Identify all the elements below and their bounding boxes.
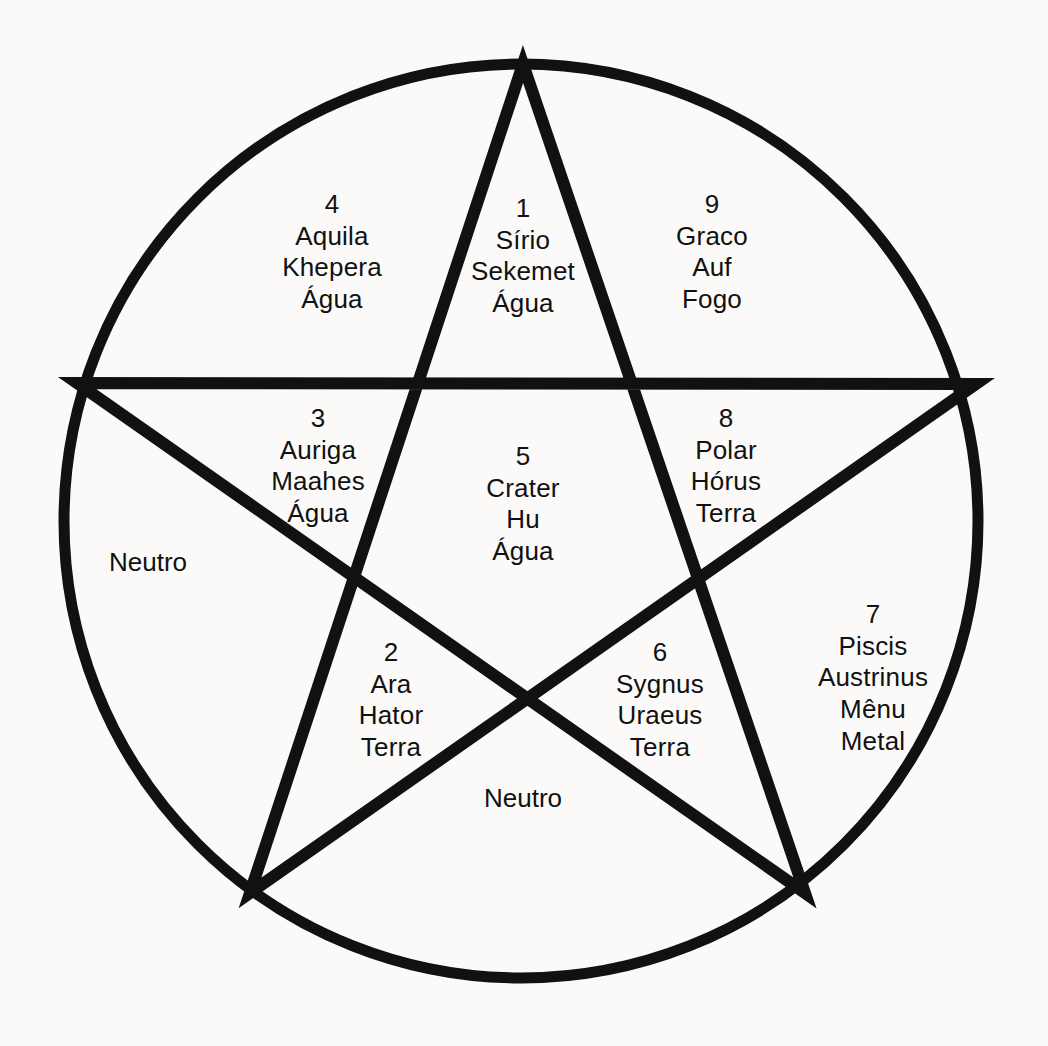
region-constellation-line1: Piscis xyxy=(818,630,928,662)
region-label-9: 9 Graco Auf Fogo xyxy=(676,189,748,316)
region-constellation: Graco xyxy=(676,220,748,252)
region-number: 3 xyxy=(271,403,365,435)
region-number: 5 xyxy=(486,441,559,473)
region-deity: Hórus xyxy=(691,466,761,498)
region-label-1: 1 Sírio Sekemet Água xyxy=(471,193,575,320)
region-number: 4 xyxy=(282,189,382,221)
region-label-5: 5 Crater Hu Água xyxy=(486,441,559,568)
region-number: 6 xyxy=(616,637,704,669)
region-label-6: 6 Sygnus Uraeus Terra xyxy=(616,637,704,764)
region-constellation: Sygnus xyxy=(616,668,704,700)
region-deity: Auf xyxy=(676,252,748,284)
region-element: Água xyxy=(486,536,559,568)
region-element: Terra xyxy=(691,498,761,530)
region-label-3: 3 Auriga Maahes Água xyxy=(271,403,365,530)
region-label-4: 4 Aquila Khepera Água xyxy=(282,189,382,316)
region-constellation: Crater xyxy=(486,472,559,504)
region-constellation-line2: Austrinus xyxy=(818,662,928,694)
region-deity: Hator xyxy=(359,700,424,732)
region-element: Água xyxy=(271,498,365,530)
region-deity: Uraeus xyxy=(616,700,704,732)
region-constellation: Auriga xyxy=(271,434,365,466)
region-constellation: Aquila xyxy=(282,220,382,252)
region-number: 9 xyxy=(676,189,748,221)
region-number: 1 xyxy=(471,193,575,225)
region-element: Água xyxy=(471,288,575,320)
neutral-label-left: Neutro xyxy=(109,547,187,578)
region-deity: Maahes xyxy=(271,466,365,498)
neutral-label-bottom: Neutro xyxy=(484,783,562,814)
region-constellation: Polar xyxy=(691,434,761,466)
region-deity: Hu xyxy=(486,504,559,536)
region-deity: Khepera xyxy=(282,252,382,284)
region-element: Água xyxy=(282,284,382,316)
region-element: Fogo xyxy=(676,284,748,316)
region-deity: Sekemet xyxy=(471,256,575,288)
region-constellation: Sírio xyxy=(471,224,575,256)
region-label-7: 7 Piscis Austrinus Mênu Metal xyxy=(818,599,928,758)
region-element: Metal xyxy=(818,726,928,758)
region-number: 2 xyxy=(359,637,424,669)
region-deity: Mênu xyxy=(818,694,928,726)
region-constellation: Ara xyxy=(359,668,424,700)
region-element: Terra xyxy=(616,732,704,764)
region-number: 7 xyxy=(818,599,928,631)
region-element: Terra xyxy=(359,732,424,764)
region-label-8: 8 Polar Hórus Terra xyxy=(691,403,761,530)
pentagram-diagram: 1 Sírio Sekemet Água 4 Aquila Khepera Ág… xyxy=(0,0,1048,1046)
region-number: 8 xyxy=(691,403,761,435)
region-label-2: 2 Ara Hator Terra xyxy=(359,637,424,764)
